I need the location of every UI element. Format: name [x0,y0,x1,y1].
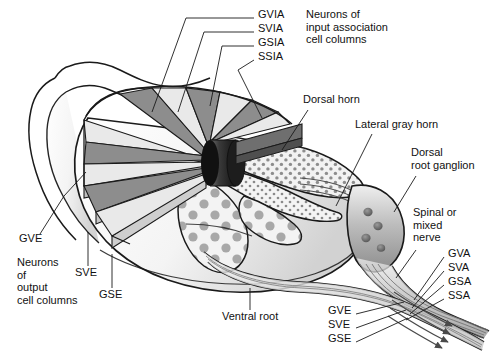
label-gsia: GSIA [258,36,284,49]
label-gva: GVA [448,247,470,260]
label-gse-left: GSE [99,288,122,301]
label-svia: SVIA [258,22,283,35]
label-gve-left: GVE [19,232,42,245]
label-sve-left: SVE [75,266,97,279]
figure-canvas: GVIA SVIA GSIA SSIA Neurons of input ass… [0,0,491,359]
label-gve-right: GVE [328,304,351,317]
label-dorsal-root-ganglion: Dorsal root ganglion [411,146,475,171]
label-sva: SVA [448,261,469,274]
caption-neurons-input: Neurons of input association cell column… [306,8,388,46]
label-ssia: SSIA [258,50,283,63]
caption-neurons-output: Neurons of output cell columns [17,256,78,306]
label-gse-right: GSE [328,332,351,345]
label-ventral-root: Ventral root [222,310,278,323]
label-gsa: GSA [448,275,471,288]
label-spinal-mixed-nerve: Spinal or mixed nerve [413,206,456,244]
label-lateral-gray-horn: Lateral gray horn [355,118,438,131]
label-gvia: GVIA [258,8,284,21]
label-dorsal-horn: Dorsal horn [303,93,360,106]
label-sve-right: SVE [328,318,350,331]
label-ssa: SSA [448,289,470,302]
